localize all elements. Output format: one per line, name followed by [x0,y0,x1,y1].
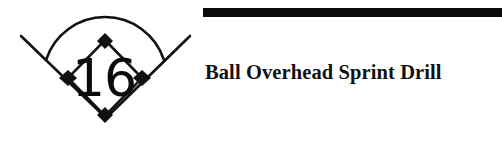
logo-graphic: 16 [0,0,200,141]
page-title: Ball Overhead Sprint Drill [205,59,442,85]
header-rule-bar [203,8,502,17]
chapter-number: 16 [72,48,136,108]
baseball-diamond-logo: 16 [0,0,200,141]
page-root: 16 Ball Overhead Sprint Drill [0,0,502,141]
